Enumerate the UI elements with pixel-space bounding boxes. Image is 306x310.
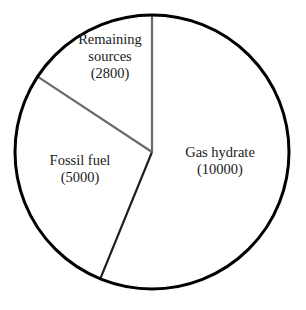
pie-chart-figure: Gas hydrate(10000) Fossil fuel(5000) Rem… bbox=[0, 0, 306, 310]
pie-chart-svg: Gas hydrate(10000) Fossil fuel(5000) Rem… bbox=[0, 0, 306, 310]
